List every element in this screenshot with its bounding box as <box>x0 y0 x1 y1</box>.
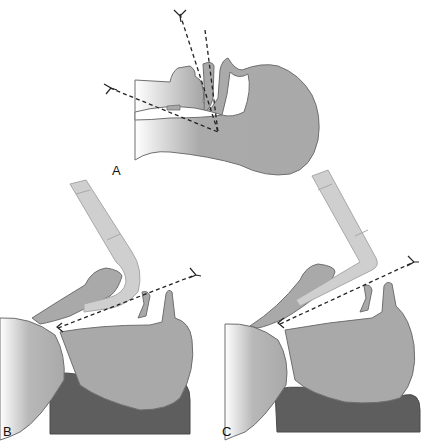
tongue-jaw <box>250 264 335 328</box>
tongue-jaw <box>32 268 122 324</box>
panel-label-a: A <box>112 163 121 178</box>
eye-symbol-icon <box>174 10 186 22</box>
panel-a <box>104 10 319 175</box>
panel-label-c: C <box>222 424 231 439</box>
panel-b <box>0 180 201 440</box>
epiglottis <box>138 292 150 319</box>
epiglottis <box>360 285 372 312</box>
diagram-canvas <box>0 0 426 448</box>
vocal-structure <box>167 105 180 110</box>
eye-symbol-icon <box>104 84 117 94</box>
panel-c <box>225 170 420 440</box>
eye-symbol-icon <box>407 256 419 266</box>
panel-label-b: B <box>3 424 12 439</box>
